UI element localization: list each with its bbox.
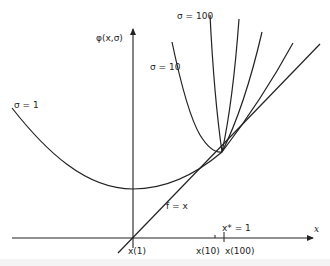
label-sigma-1: σ = 1 (14, 100, 39, 110)
tick-label-x1: x(1) (128, 246, 146, 256)
curve-sigma-10 (172, 42, 222, 152)
bottom-margin (0, 259, 330, 266)
tick-label-x100: x(100) (225, 246, 255, 256)
y-axis-label: φ(x,σ) (96, 33, 123, 43)
line-f-equals-x (118, 44, 320, 253)
curve-sigma-100 (210, 15, 222, 152)
label-sigma-100: σ = 100 (177, 11, 213, 21)
x-axis-label: x (314, 224, 319, 234)
y-axis-label-text: φ(x,σ) (96, 33, 123, 43)
curve-right-branch-2 (222, 32, 262, 152)
tick-label-xstar: x* = 1 (222, 223, 251, 233)
label-f-equals-x: f = x (166, 201, 188, 211)
label-sigma-10: σ = 10 (150, 62, 180, 72)
tick-label-x10: x(10) (196, 246, 220, 256)
curve-right-branch-3 (222, 43, 293, 152)
diagram-svg (0, 0, 330, 266)
penalty-function-diagram: φ(x,σ) x σ = 1 σ = 10 σ = 100 f = x x(1)… (0, 0, 330, 266)
curve-sigma-1 (12, 108, 222, 189)
